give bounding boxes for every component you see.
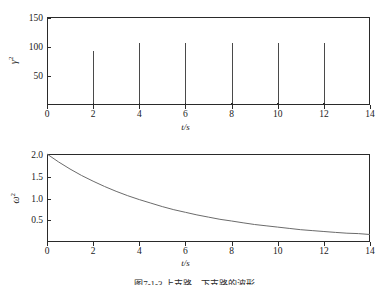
bottom-xtick-label-2: 2 <box>91 246 96 256</box>
top-xtick-mark-0 <box>47 105 48 109</box>
impulse-base-marker <box>93 103 95 105</box>
top-ytick-label-50: 50 <box>10 71 43 81</box>
top-plot-x-axis-label: t/s <box>181 122 190 132</box>
bottom-xtick-label-6: 6 <box>183 246 188 256</box>
impulse-base-marker <box>277 103 279 105</box>
top-panel: γ2 150 100 50 <box>0 0 389 142</box>
bottom-xtick-label-12: 12 <box>319 246 329 256</box>
bottom-xtick-mark-4 <box>139 242 140 246</box>
impulse-spike <box>232 43 233 105</box>
top-xtick-label-12: 12 <box>319 109 329 119</box>
impulse-base-marker <box>231 103 233 105</box>
top-xtick-mark-12 <box>324 105 325 109</box>
impulse-spike <box>185 43 186 105</box>
bottom-xtick-label-8: 8 <box>229 246 234 256</box>
top-xtick-label-10: 10 <box>273 109 283 119</box>
bottom-xtick-label-0: 0 <box>45 246 50 256</box>
figure-container: γ2 150 100 50 <box>0 0 389 285</box>
impulse-base-marker <box>139 103 141 105</box>
bottom-xtick-mark-6 <box>185 242 186 246</box>
top-ytick-mark-150 <box>47 18 51 19</box>
top-xtick-label-8: 8 <box>229 109 234 119</box>
bottom-xtick-mark-8 <box>232 242 233 246</box>
top-xtick-label-0: 0 <box>45 109 50 119</box>
impulse-spike <box>93 51 94 105</box>
top-y-label-text: γ <box>8 60 19 64</box>
top-xtick-mark-6 <box>185 105 186 109</box>
bottom-xtick-mark-10 <box>278 242 279 246</box>
top-y-label-exponent: 2 <box>7 56 15 60</box>
impulse-base-marker <box>185 103 187 105</box>
top-xtick-mark-10 <box>278 105 279 109</box>
bottom-xtick-mark-0 <box>47 242 48 246</box>
top-xtick-mark-2 <box>93 105 94 109</box>
top-xtick-mark-4 <box>139 105 140 109</box>
impulse-base-marker <box>323 103 325 105</box>
top-xtick-mark-14 <box>370 105 371 109</box>
top-xtick-label-6: 6 <box>183 109 188 119</box>
top-xtick-label-2: 2 <box>91 109 96 119</box>
bottom-xtick-mark-12 <box>324 242 325 246</box>
top-ytick-label-100: 100 <box>10 42 43 52</box>
impulse-spike <box>278 43 279 105</box>
top-ytick-mark-50 <box>47 76 51 77</box>
impulse-spike <box>139 43 140 105</box>
top-xtick-label-4: 4 <box>137 109 142 119</box>
bottom-panel: ω2 2.0 1.5 1.0 0.5 0 2 4 6 8 10 12 14 <box>0 144 389 269</box>
top-ytick-label-150: 150 <box>10 13 43 23</box>
impulse-spike <box>324 43 325 105</box>
top-ytick-mark-100 <box>47 47 51 48</box>
bottom-plot-x-axis-label: t/s <box>181 258 190 268</box>
figure-caption: 图7-1-3 上支路、下支路的波形 <box>0 279 389 285</box>
bottom-xtick-label-14: 14 <box>365 246 375 256</box>
bottom-xtick-label-10: 10 <box>273 246 283 256</box>
decay-curve-svg <box>0 144 389 269</box>
bottom-xtick-label-4: 4 <box>137 246 142 256</box>
omega-squared-decay-curve <box>47 154 370 235</box>
top-xtick-mark-8 <box>232 105 233 109</box>
top-xtick-label-14: 14 <box>365 109 375 119</box>
top-plot-frame <box>47 17 370 105</box>
bottom-xtick-mark-2 <box>93 242 94 246</box>
bottom-xtick-mark-14 <box>370 242 371 246</box>
